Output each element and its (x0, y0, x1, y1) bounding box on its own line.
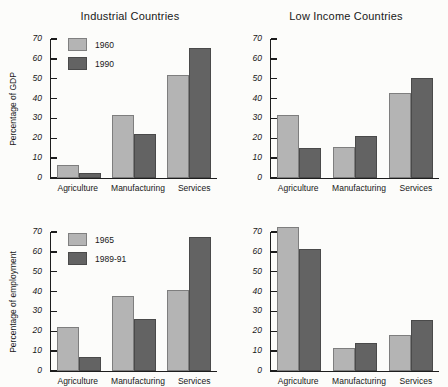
panel-industrial-gdp: Industrial Countries Percentage of GDP 7… (0, 0, 224, 194)
y-tick-label: 70 (33, 33, 42, 44)
y-tick-label: 40 (253, 286, 262, 297)
y-axis-label: Percentage of GDP (7, 39, 19, 178)
plot-area: 70 60 50 40 30 20 10 0 AgricultureManufa… (270, 39, 439, 179)
bar-group-container (271, 39, 439, 178)
x-tick-label: Manufacturing (332, 183, 386, 193)
y-tick-label: 40 (33, 93, 42, 104)
bar (277, 227, 299, 371)
bar-group-container (271, 232, 439, 371)
y-axis-label-text: Percentage of employment (8, 251, 18, 353)
y-tick-label: 50 (253, 266, 262, 277)
x-tick-label: Manufacturing (111, 183, 165, 193)
x-tick-label: Services (400, 183, 433, 193)
chart-title: Low Income Countries (224, 10, 448, 22)
bar-group (277, 39, 321, 178)
legend-label: 1989-91 (95, 254, 126, 264)
y-axis-label: Percentage of employment (7, 232, 19, 371)
y-tick-label: 0 (37, 172, 42, 183)
y-tick-label: 40 (33, 286, 42, 297)
legend-item: 1989-91 (68, 252, 126, 265)
y-tick-label: 0 (37, 365, 42, 376)
bar (57, 165, 79, 178)
chart-title: Industrial Countries (0, 10, 242, 22)
legend: 19601990 (68, 38, 114, 70)
bar (277, 115, 299, 178)
y-tick-label: 30 (33, 112, 42, 123)
y-tick-label: 10 (33, 345, 42, 356)
four-panel-bar-chart-figure: Industrial Countries Percentage of GDP 7… (0, 0, 448, 387)
y-axis-label-text: Percentage of GDP (8, 72, 18, 146)
x-tick-label: Services (178, 183, 211, 193)
bar-group (277, 232, 321, 371)
y-tick-label: 50 (33, 266, 42, 277)
y-tick-label: 50 (33, 73, 42, 84)
bar (389, 335, 411, 371)
legend-swatch-icon (68, 38, 87, 51)
y-tick-label: 30 (253, 112, 262, 123)
bar-group (389, 39, 433, 178)
x-tick-label: Manufacturing (332, 376, 386, 386)
y-tick-label: 20 (33, 325, 42, 336)
x-tick-label: Agriculture (278, 376, 319, 386)
x-tick-label: Agriculture (278, 183, 319, 193)
y-tick-label: 60 (33, 246, 42, 257)
legend-label: 1965 (95, 235, 114, 245)
y-tick-label: 70 (33, 226, 42, 237)
x-tick-label: Services (400, 376, 433, 386)
legend-swatch-icon (68, 57, 87, 70)
legend: 19651989-91 (68, 233, 126, 265)
x-tick-label: Services (178, 376, 211, 386)
bar (57, 327, 79, 371)
bar (389, 93, 411, 178)
y-tick-label: 20 (253, 325, 262, 336)
y-tick-label: 10 (33, 152, 42, 163)
legend-item: 1990 (68, 57, 114, 70)
bar (112, 296, 134, 371)
bar (189, 237, 211, 371)
bar (299, 249, 321, 371)
bar (189, 48, 211, 178)
panel-lowincome-gdp: Low Income Countries 70 60 50 40 30 20 1… (224, 0, 448, 194)
y-tick-label: 10 (253, 345, 262, 356)
y-tick-label: 60 (253, 53, 262, 64)
bar-group (333, 39, 377, 178)
y-tick-label: 50 (253, 73, 262, 84)
legend-item: 1965 (68, 233, 126, 246)
x-tick-label: Agriculture (57, 183, 98, 193)
bar (299, 148, 321, 178)
bar (134, 319, 156, 371)
bar (333, 348, 355, 371)
legend-swatch-icon (68, 233, 87, 246)
y-tick-label: 30 (253, 305, 262, 316)
x-axis-labels: AgricultureManufacturingServices (51, 178, 217, 193)
y-tick-label: 70 (253, 226, 262, 237)
panel-industrial-employment: Percentage of employment 70 60 50 40 30 … (0, 193, 224, 387)
bar (79, 357, 101, 371)
bar (355, 136, 377, 178)
y-tick-label: 20 (253, 132, 262, 143)
x-tick-label: Agriculture (57, 376, 98, 386)
bar (411, 320, 433, 371)
bar-group (167, 232, 211, 371)
y-tick-label: 0 (257, 365, 262, 376)
y-tick-label: 60 (33, 53, 42, 64)
y-tick-label: 20 (33, 132, 42, 143)
y-tick-label: 30 (33, 305, 42, 316)
x-axis-labels: AgricultureManufacturingServices (271, 371, 439, 386)
bar-group (389, 232, 433, 371)
y-tick-label: 0 (257, 172, 262, 183)
legend-label: 1960 (95, 40, 114, 50)
bar-group (167, 39, 211, 178)
bar (167, 290, 189, 371)
bar (134, 134, 156, 178)
y-tick-label: 70 (253, 33, 262, 44)
legend-label: 1990 (95, 59, 114, 69)
bar (167, 75, 189, 178)
y-tick-label: 10 (253, 152, 262, 163)
legend-swatch-icon (68, 252, 87, 265)
x-axis-labels: AgricultureManufacturingServices (271, 178, 439, 193)
bar (333, 147, 355, 178)
x-axis-labels: AgricultureManufacturingServices (51, 371, 217, 386)
plot-area: 70 60 50 40 30 20 10 0 AgricultureManufa… (270, 232, 439, 372)
bar (355, 343, 377, 371)
